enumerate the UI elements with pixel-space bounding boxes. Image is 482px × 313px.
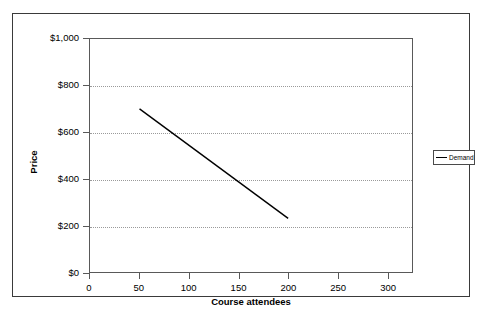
chart-screenshot: $0$200$400$600$800$1,000 050100150200250… — [0, 0, 482, 313]
x-tick-250 — [338, 273, 339, 279]
chart-frame: $0$200$400$600$800$1,000 050100150200250… — [12, 13, 470, 297]
x-tick-label-wrap-0: 0 — [69, 282, 109, 294]
x-tick-label-50: 50 — [119, 282, 159, 294]
series-line-demand — [140, 109, 289, 219]
x-tick-label-wrap-200: 200 — [268, 282, 308, 294]
legend-label-demand: Demand — [449, 154, 474, 162]
x-tick-label-100: 100 — [169, 282, 209, 294]
plot-area — [89, 38, 413, 273]
x-tick-200 — [288, 273, 289, 279]
y-tick-label-200: $200 — [58, 221, 79, 231]
x-tick-label-250: 250 — [318, 282, 358, 294]
x-tick-150 — [239, 273, 240, 279]
series-layer — [90, 39, 412, 272]
x-tick-300 — [388, 273, 389, 279]
y-tick-label-wrap-800: $800 — [13, 80, 79, 90]
y-tick-label-wrap-200: $200 — [13, 221, 79, 231]
x-tick-label-wrap-50: 50 — [119, 282, 159, 294]
x-tick-label-300: 300 — [368, 282, 408, 294]
y-tick-label-1000: $1,000 — [50, 33, 79, 43]
y-axis-title: Price — [28, 122, 39, 202]
x-tick-label-200: 200 — [268, 282, 308, 294]
chart-legend: Demand — [433, 150, 475, 165]
x-tick-50 — [139, 273, 140, 279]
x-tick-label-wrap-300: 300 — [368, 282, 408, 294]
x-tick-0 — [89, 273, 90, 279]
y-tick-label-wrap-0: $0 — [13, 268, 79, 278]
x-tick-label-wrap-150: 150 — [219, 282, 259, 294]
x-tick-label-wrap-250: 250 — [318, 282, 358, 294]
x-tick-100 — [189, 273, 190, 279]
x-tick-label-150: 150 — [219, 282, 259, 294]
x-tick-label-wrap-100: 100 — [169, 282, 209, 294]
y-tick-label-wrap-600: $600 — [13, 127, 79, 137]
legend-line-swatch-demand — [436, 157, 447, 158]
y-tick-label-wrap-1000: $1,000 — [13, 33, 79, 43]
y-tick-label-600: $600 — [58, 127, 79, 137]
y-tick-label-wrap-400: $400 — [13, 174, 79, 184]
y-tick-label-800: $800 — [58, 80, 79, 90]
x-tick-label-0: 0 — [69, 282, 109, 294]
x-axis-title: Course attendees — [89, 296, 413, 307]
y-tick-label-0: $0 — [68, 268, 79, 278]
y-tick-label-400: $400 — [58, 174, 79, 184]
